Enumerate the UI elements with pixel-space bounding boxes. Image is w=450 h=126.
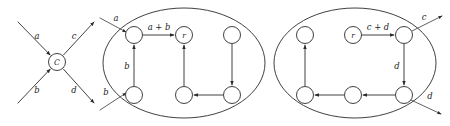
edge-label-a+b: a + b	[148, 22, 171, 32]
cluster-node-m-br	[224, 87, 241, 104]
edge-label-c+d: c + d	[367, 22, 390, 32]
cluster-node-m-tr	[224, 27, 241, 44]
cluster-node-label-r-tm: r	[351, 31, 355, 40]
cluster-node-r-tl	[297, 27, 314, 44]
cluster-node-r-tr	[396, 27, 413, 44]
diagram-canvas: acbdCa + bbabrc + ddcdr	[0, 0, 450, 126]
edge-label-b: b	[34, 85, 39, 95]
composite-node-label: C	[54, 58, 60, 67]
cluster-node-r-bm	[345, 87, 362, 104]
cluster-cd-panel	[274, 8, 442, 118]
edge-c-out	[64, 22, 94, 55]
edge-label-a: a	[35, 31, 40, 41]
edge-label-d: d	[71, 85, 77, 95]
cluster-node-m-tl	[126, 27, 143, 44]
external-edge-label-b: b	[103, 87, 108, 97]
external-edge-d-out	[411, 100, 441, 114]
cluster-node-r-br	[396, 87, 413, 104]
figure-root: acbdCa + bbabrc + ddcdr	[0, 0, 450, 126]
edge-d-out	[63, 69, 94, 103]
edge-label-c: c	[72, 31, 77, 41]
edge-label-d: d	[394, 61, 400, 71]
external-edge-label-c: c	[422, 12, 427, 22]
cluster-node-label-m-tm: r	[182, 31, 186, 40]
external-edge-label-a: a	[114, 13, 119, 23]
cluster-node-m-bm	[176, 87, 193, 104]
external-edge-label-d: d	[427, 91, 433, 101]
edge-label-b: b	[124, 61, 129, 71]
cluster-node-m-bl	[126, 87, 143, 104]
cluster-node-r-bl	[297, 87, 314, 104]
external-edge-c-out	[412, 16, 442, 31]
